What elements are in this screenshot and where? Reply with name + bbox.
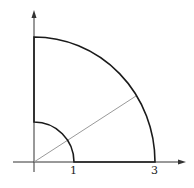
ray-line [34,96,136,162]
polar-region-diagram: 1 3 [0,0,194,188]
tick-label-3: 3 [151,164,158,177]
region-boundary [34,37,155,162]
x-axis-arrow-icon [178,160,186,165]
tick-label-1: 1 [70,164,77,177]
y-axis-arrow-icon [32,10,37,18]
